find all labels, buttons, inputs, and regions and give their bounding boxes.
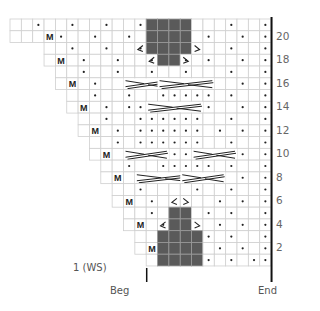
stitch-cell	[226, 125, 237, 137]
stitch-cell	[203, 219, 214, 231]
stitch-cell	[248, 66, 259, 78]
stitch-cell	[158, 207, 169, 219]
no-stitch-cell	[158, 43, 169, 55]
stitch-cell	[192, 54, 203, 66]
purl-dot-icon	[185, 71, 187, 73]
stitch-cell	[248, 113, 259, 125]
purl-dot-icon	[264, 235, 266, 237]
stitch-cell	[135, 231, 146, 243]
no-stitch-cell	[169, 54, 180, 66]
stitch-cell	[101, 66, 112, 78]
stitch-cell	[214, 66, 225, 78]
no-stitch-cell	[180, 43, 191, 55]
purl-dot-icon	[196, 165, 198, 167]
stitch-cell	[112, 90, 123, 102]
purl-dot-icon	[94, 94, 96, 96]
no-stitch-cell	[158, 31, 169, 43]
stitch-cell	[124, 184, 135, 196]
purl-dot-icon	[264, 24, 266, 26]
stitch-cell	[192, 195, 203, 207]
purl-dot-icon	[105, 47, 107, 49]
purl-dot-icon	[264, 200, 266, 202]
no-stitch-cell	[180, 219, 191, 231]
stitch-cell	[146, 90, 157, 102]
no-stitch-cell	[180, 207, 191, 219]
stitch-cell	[89, 19, 100, 31]
no-stitch-cell	[158, 54, 169, 66]
purl-dot-icon	[117, 71, 119, 73]
no-stitch-cell	[192, 242, 203, 254]
stitch-cell	[112, 148, 123, 160]
stitch-cell	[101, 125, 112, 137]
stitch-cell	[226, 242, 237, 254]
stitch-cell	[135, 31, 146, 43]
stitch-cell	[237, 207, 248, 219]
no-stitch-cell	[169, 254, 180, 266]
purl-dot-icon	[128, 165, 130, 167]
stitch-cell	[248, 125, 259, 137]
stitch-cell	[112, 101, 123, 113]
purl-dot-icon	[105, 118, 107, 120]
stitch-cell	[124, 113, 135, 125]
purl-dot-icon	[151, 118, 153, 120]
purl-dot-icon	[117, 130, 119, 132]
stitch-cell	[248, 137, 259, 149]
stitch-cell	[192, 31, 203, 43]
stitch-cell	[146, 231, 157, 243]
purl-dot-icon	[264, 247, 266, 249]
stitch-cell	[214, 207, 225, 219]
stitch-cell	[237, 43, 248, 55]
purl-dot-icon	[230, 94, 232, 96]
stitch-cell	[67, 31, 78, 43]
stitch-cell	[101, 54, 112, 66]
purl-dot-icon	[242, 83, 244, 85]
no-stitch-cell	[146, 19, 157, 31]
purl-dot-icon	[185, 153, 187, 155]
purl-dot-icon	[128, 36, 130, 38]
purl-dot-icon	[264, 224, 266, 226]
stitch-cell	[214, 54, 225, 66]
stitch-cell	[203, 195, 214, 207]
row-number: 4	[276, 218, 283, 230]
stitch-cell	[67, 66, 78, 78]
purl-dot-icon	[71, 24, 73, 26]
purl-dot-icon	[242, 130, 244, 132]
purl-dot-icon	[173, 94, 175, 96]
purl-dot-icon	[173, 141, 175, 143]
purl-dot-icon	[230, 235, 232, 237]
stitch-cell	[214, 113, 225, 125]
row-number: 6	[276, 194, 283, 206]
stitch-cell	[192, 43, 203, 55]
purl-dot-icon	[230, 118, 232, 120]
stitch-cell	[248, 231, 259, 243]
stitch-cell	[135, 90, 146, 102]
stitch-cell	[124, 19, 135, 31]
purl-dot-icon	[264, 141, 266, 143]
stitch-cell	[112, 43, 123, 55]
purl-dot-icon	[151, 130, 153, 132]
stitch-cell	[124, 172, 135, 184]
stitch-cell	[146, 254, 157, 266]
purl-dot-icon	[162, 94, 164, 96]
stitch-cell	[214, 254, 225, 266]
purl-dot-icon	[162, 141, 164, 143]
make-one-symbol: M	[91, 126, 99, 136]
stitch-cell	[237, 231, 248, 243]
stitch-cell	[112, 78, 123, 90]
stitch-cell	[158, 66, 169, 78]
stitch-cell	[192, 66, 203, 78]
stitch-cell	[44, 43, 55, 55]
purl-dot-icon	[253, 259, 255, 261]
stitch-cell	[146, 184, 157, 196]
stitch-cell	[124, 219, 135, 231]
stitch-cell	[78, 78, 89, 90]
no-stitch-cell	[146, 31, 157, 43]
stitch-cell	[203, 113, 214, 125]
purl-dot-icon	[60, 36, 62, 38]
stitch-cell	[89, 43, 100, 55]
purl-dot-icon	[208, 106, 210, 108]
stitch-cell	[146, 219, 157, 231]
purl-dot-icon	[139, 106, 141, 108]
make-one-symbol: M	[148, 244, 156, 254]
stitch-cell	[67, 101, 78, 113]
